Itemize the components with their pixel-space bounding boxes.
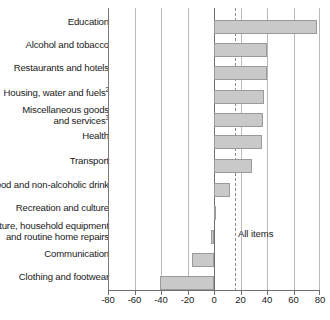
gridline-40 (267, 8, 268, 291)
category-label-text: Communication (44, 248, 109, 259)
bar-communication (192, 253, 215, 267)
bar-miscellaneous-goods-and-services (214, 113, 263, 127)
category-label-restaurants-and-hotels: Restaurants and hotels (0, 63, 109, 74)
category-label-furniture-household-equipment: Furniture, household equipment and routi… (0, 221, 109, 242)
category-label-text: Housing, water and fuels (4, 87, 106, 98)
category-label-miscellaneous-goods-and-services: Miscellaneous goods and services3 (0, 105, 109, 126)
category-label-text: Education (68, 16, 109, 27)
category-label-text: Alcohol and tobacco (25, 39, 109, 50)
bar-furniture-household-equipment (211, 230, 214, 244)
gridline--40 (161, 8, 162, 291)
bar-food-and-non-alcoholic-drink (214, 183, 230, 197)
category-label-line2: and routine home repairs (0, 232, 109, 243)
gridline--80 (108, 8, 109, 291)
category-label-alcohol-and-tobacco: Alcohol and tobacco (0, 40, 109, 51)
bar-restaurants-and-hotels (214, 66, 267, 80)
category-label-transport: Transport (0, 156, 109, 167)
gridline--60 (135, 8, 136, 291)
category-label-food-and-non-alcoholic-drink: Food and non-alcoholic drink (0, 180, 109, 191)
category-label-line1: Furniture, household equipment (0, 221, 109, 232)
bar-health (214, 135, 262, 149)
plot-area (108, 8, 320, 291)
bar-alcohol-and-tobacco (214, 43, 267, 57)
all-items-annotation-label: All items (238, 228, 273, 239)
gridline--20 (188, 8, 189, 291)
category-label-communication: Communication (0, 249, 109, 260)
bar-recreation-and-culture (214, 206, 216, 220)
category-label-text: Recreation and culture (16, 202, 109, 213)
category-label-line2: and services3 (0, 116, 109, 127)
bar-transport (214, 159, 252, 173)
gridline-60 (294, 8, 295, 291)
category-label-health: Health (0, 131, 109, 142)
category-label-text: Health (82, 130, 109, 141)
axis-tick-label-80: 80 (303, 294, 330, 305)
gridline-80 (319, 8, 320, 291)
category-label-recreation-and-culture: Recreation and culture (0, 203, 109, 214)
category-label-housing-water-and-fuels: Housing, water and fuels2 (0, 88, 109, 99)
category-label-text: Transport (70, 155, 109, 166)
category-label-line2-text: and services (54, 115, 106, 126)
category-label-text: Restaurants and hotels (14, 62, 109, 73)
category-label-clothing-and-footwear: Clothing and footwear (0, 272, 109, 283)
footnote-strip (2, 314, 323, 320)
bar-clothing-and-footwear (160, 276, 214, 290)
bar-housing-water-and-fuels (214, 90, 264, 104)
category-label-text: Food and non-alcoholic drink (0, 179, 109, 190)
bar-education (214, 20, 317, 34)
category-label-education: Education (0, 17, 109, 28)
category-label-text: Clothing and footwear (19, 271, 109, 282)
